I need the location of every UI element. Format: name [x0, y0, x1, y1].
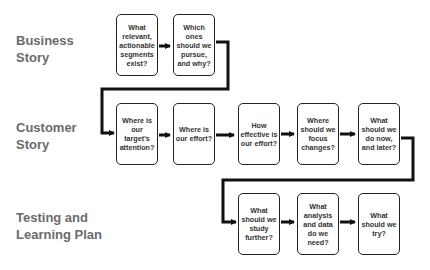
step-box: What relevant, actionable segments exist…	[116, 14, 158, 76]
step-box: Which ones should we pursue, and why?	[173, 14, 215, 76]
step-text: How effective is our effort?	[239, 121, 279, 148]
row-label-business-story: Business Story	[16, 32, 74, 66]
step-box: What should we study further?	[238, 193, 280, 255]
step-box: How effective is our effort?	[238, 103, 280, 165]
label-line: Learning Plan	[16, 226, 102, 243]
label-line: Testing and	[16, 209, 102, 226]
label-line: Customer	[16, 119, 77, 136]
step-box: Where is our effort?	[173, 103, 215, 165]
row-label-testing-learning-plan: Testing and Learning Plan	[16, 209, 102, 243]
step-text: What relevant, actionable segments exist…	[117, 23, 157, 68]
step-text: Where is our effort?	[174, 125, 214, 143]
step-text: What analysis and data do we need?	[298, 202, 338, 247]
step-box: What should we do now, and later?	[358, 103, 400, 165]
step-box: Where should we focus changes?	[297, 103, 339, 165]
step-text: What should we study further?	[239, 206, 279, 242]
label-line: Story	[16, 49, 74, 66]
step-text: What should we do now, and later?	[359, 116, 399, 152]
step-box: What analysis and data do we need?	[297, 193, 339, 255]
step-text: Which ones should we pursue, and why?	[174, 23, 214, 68]
row-label-customer-story: Customer Story	[16, 119, 77, 153]
step-text: Where should we focus changes?	[298, 116, 338, 152]
label-line: Story	[16, 136, 77, 153]
label-line: Business	[16, 32, 74, 49]
step-text: Where is our target's attention?	[117, 116, 157, 152]
step-text: What should we try?	[359, 211, 399, 238]
step-box: What should we try?	[358, 193, 400, 255]
step-box: Where is our target's attention?	[116, 103, 158, 165]
